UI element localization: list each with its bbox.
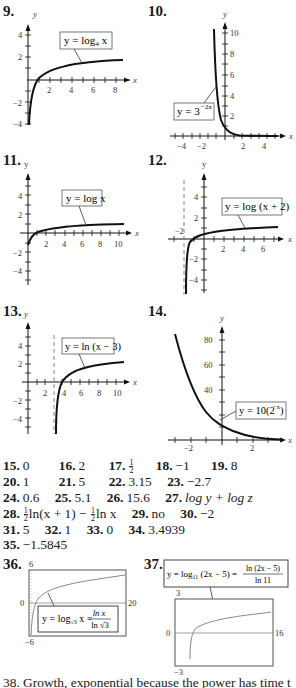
svg-text:−2: −2 (184, 443, 193, 453)
answer-list: 15.0 16.2 17.12 18.−1 19.8 20.1 21.5 22.… (3, 458, 295, 553)
graph-13-label: y = ln (x − 3) (65, 341, 121, 353)
svg-text:6: 6 (79, 388, 83, 398)
svg-text:80: 80 (204, 335, 213, 345)
svg-text:−2: −2 (13, 396, 22, 406)
svg-text:2: 2 (18, 210, 22, 220)
svg-text:2: 2 (250, 443, 254, 453)
answer-15: 15.0 (3, 458, 29, 474)
svg-text:ln 11: ln 11 (255, 576, 271, 585)
answer-31: 31.5 (3, 522, 29, 538)
answer-17: 17.12 (109, 458, 135, 474)
answer-26: 26.15.6 (107, 490, 150, 506)
answer-22: 22.3.15 (109, 474, 152, 490)
svg-text:y: y (23, 309, 28, 319)
svg-text:x: x (288, 131, 293, 141)
svg-text:ln √3: ln √3 (91, 620, 109, 630)
svg-text:8: 8 (97, 388, 101, 398)
graph-37-label: y = log11 (2x − 5) = (167, 569, 237, 580)
truncated-answer-38: 38. Growth, exponential because the powe… (3, 675, 291, 688)
svg-text:4: 4 (62, 388, 67, 398)
svg-text:8: 8 (98, 239, 102, 249)
svg-text:x: x (287, 435, 292, 445)
svg-text:x: x (132, 377, 137, 387)
svg-text:4: 4 (62, 239, 67, 249)
graph-36-label: y = log√3 x = (42, 613, 93, 625)
svg-text:y: y (202, 159, 207, 169)
graph-11: y = log x y x 2 4 6 8 10 4 2 −2 −4 (0, 150, 148, 290)
svg-text:−2: −2 (189, 254, 198, 264)
answer-row: 20.1 21.5 22.3.15 23.−2.7 (3, 474, 295, 490)
svg-text:y: y (219, 313, 224, 323)
svg-text:6: 6 (80, 239, 84, 249)
svg-text:−6: −6 (25, 637, 34, 647)
svg-text:6: 6 (261, 244, 265, 254)
svg-text:−4: −4 (13, 266, 23, 276)
svg-text:2: 2 (194, 213, 198, 223)
answer-21: 21.5 (59, 474, 85, 490)
answer-28: 28.12ln(x + 1) − 12ln x (3, 506, 116, 522)
answer-34: 34.3.4939 (128, 522, 185, 538)
answer-29: 29.no (132, 506, 165, 522)
svg-text:4: 4 (230, 91, 235, 101)
svg-text:2: 2 (18, 359, 22, 369)
svg-text:4: 4 (69, 85, 74, 95)
graph-10-label-exp: −2x (201, 103, 212, 111)
answer-row: 35.−1.5845 (3, 537, 295, 553)
svg-text:): ) (280, 405, 284, 417)
svg-text:y: y (24, 159, 29, 169)
svg-text:−4: −4 (13, 119, 23, 129)
svg-text:−4: −4 (13, 414, 23, 424)
svg-text:2: 2 (47, 85, 51, 95)
graph-12: y = log (x + 2) y x −2 2 4 6 4 2 −2 −4 (148, 150, 296, 300)
svg-text:60: 60 (204, 360, 213, 370)
graph-37: y = log11 (2x − 5) = ln (2x − 5) ln 11 3… (140, 555, 296, 675)
svg-text:y: y (222, 9, 227, 19)
answer-24: 24.0.6 (3, 490, 40, 506)
svg-text:6: 6 (230, 70, 234, 80)
graph-9-label: y = log₄ x (64, 34, 108, 46)
svg-text:3: 3 (176, 588, 180, 598)
answer-30: 30.−2 (180, 506, 214, 522)
svg-text:y: y (32, 9, 37, 19)
answer-23: 23.−2.7 (167, 474, 211, 490)
svg-text:−2: −2 (13, 248, 22, 258)
svg-text:40: 40 (204, 385, 213, 395)
svg-text:4: 4 (241, 244, 246, 254)
answer-19: 19.8 (211, 458, 237, 474)
answer-32: 32.1 (45, 522, 71, 538)
graph-14: y = 10(2 −x ) y x −2 2 80 60 40 (148, 300, 296, 450)
svg-text:x: x (132, 75, 137, 85)
svg-text:4: 4 (18, 191, 23, 201)
answer-row: 28.12ln(x + 1) − 12ln x 29.no 30.−2 (3, 506, 295, 522)
svg-text:ln x: ln x (93, 608, 106, 618)
svg-text:4: 4 (194, 192, 199, 202)
graph-13: y = ln (x − 3) y x 2 4 6 8 10 4 2 −2 −4 (0, 300, 148, 450)
answer-18: 18.−1 (156, 458, 190, 474)
asymptote-label: −2 (175, 227, 184, 236)
svg-text:2: 2 (43, 388, 47, 398)
svg-text:ln (2x − 5): ln (2x − 5) (246, 564, 280, 573)
svg-text:0: 0 (166, 628, 170, 638)
svg-text:−4: −4 (189, 275, 199, 285)
graph-36: y = log√3 x = ln x ln √3 6 −6 0 20 (0, 555, 148, 655)
graph-10: y = 3 −2x y x −4 −2 2 4 10 8 6 4 2 (148, 0, 296, 150)
answer-25: 25.5.1 (55, 490, 92, 506)
svg-text:6: 6 (91, 85, 95, 95)
svg-text:8: 8 (230, 49, 234, 59)
answer-33: 33.0 (87, 522, 113, 538)
answer-35: 35.−1.5845 (3, 537, 67, 553)
answer-row: 15.0 16.2 17.12 18.−1 19.8 (3, 458, 295, 474)
svg-text:0: 0 (20, 598, 24, 608)
graph-9: y = log₄ x y x 2 4 6 8 4 2 −2 −4 (0, 0, 148, 140)
svg-text:20: 20 (128, 598, 137, 608)
svg-text:10: 10 (114, 239, 123, 249)
svg-text:x: x (287, 234, 292, 244)
graph-11-label: y = log x (66, 192, 106, 204)
svg-text:2: 2 (18, 52, 22, 62)
svg-text:10: 10 (113, 388, 122, 398)
svg-text:16: 16 (275, 628, 284, 638)
graph-14-label-base: y = 10(2 (239, 405, 275, 417)
answer-27: 27.log y + log z (165, 490, 253, 506)
svg-text:6: 6 (29, 559, 33, 569)
graph-10-label-base: y = 3 (177, 105, 200, 117)
